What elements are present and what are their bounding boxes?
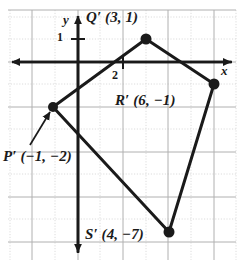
vertex-p	[48, 102, 58, 112]
vertex-label-s: S′ (4, −7)	[85, 226, 144, 243]
vertex-s	[164, 227, 175, 238]
vertex-label-p: P′ (−1, −2)	[3, 148, 72, 165]
y-axis-label: y	[63, 12, 69, 28]
coordinate-plane	[0, 0, 237, 261]
vertex-r	[209, 79, 220, 90]
grid-minor	[8, 10, 236, 260]
vertex-markers	[48, 34, 220, 238]
x-tick-label-2: 2	[112, 68, 118, 83]
figure-canvas: Q′ (3, 1) R′ (6, −1) P′ (−1, −2) S′ (4, …	[0, 0, 237, 261]
p-leader-arrow	[30, 112, 50, 145]
y-tick-label-1: 1	[57, 30, 63, 45]
x-axis-label: x	[221, 63, 228, 79]
grid-major	[8, 10, 236, 260]
vertex-label-r: R′ (6, −1)	[115, 92, 176, 109]
vertex-label-q: Q′ (3, 1)	[86, 9, 138, 26]
vertex-q	[141, 34, 152, 45]
